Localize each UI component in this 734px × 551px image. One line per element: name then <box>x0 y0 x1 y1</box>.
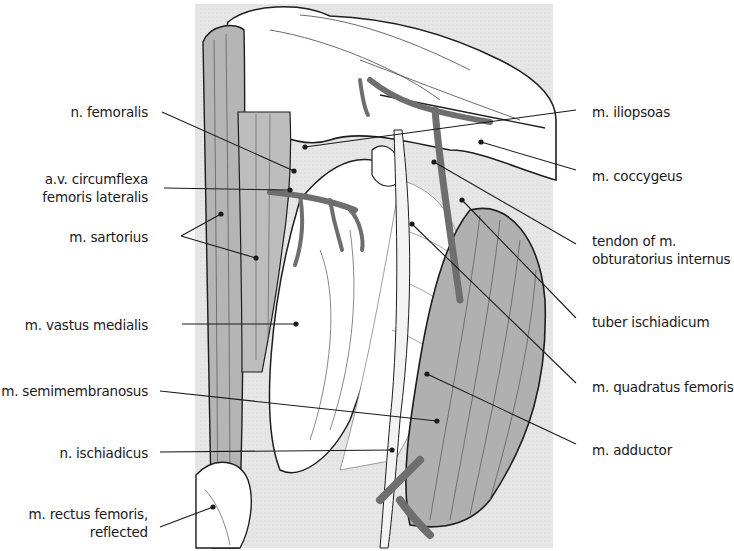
label-line: m. semimembranosus <box>1 382 148 400</box>
label-line: n. femoralis <box>70 103 148 121</box>
label-line: a.v. circumflexa <box>42 170 148 188</box>
label-n-femoralis: n. femoralis <box>70 103 148 121</box>
leader-dot-m-coccygeus <box>478 139 483 144</box>
leader-dot-n-femoralis <box>291 168 296 173</box>
label-line: reflected <box>29 523 148 541</box>
label-m-rectus-femoris-reflected: m. rectus femoris,reflected <box>29 505 148 541</box>
label-line: m. coccygeus <box>592 167 682 185</box>
leader-dot-m-adductor <box>424 371 429 376</box>
label-m-quadratus-femoris: m. quadratus femoris <box>592 378 734 396</box>
label-line: m. iliopsoas <box>592 103 670 121</box>
leader-dot-tuber-ischiadicum <box>459 197 464 202</box>
leader-dot-m-sartorius-2 <box>253 255 258 260</box>
label-m-vastus-medialis: m. vastus medialis <box>25 316 148 334</box>
label-m-coccygeus: m. coccygeus <box>592 167 682 185</box>
leader-dot-m-sartorius <box>218 211 223 216</box>
label-line: n. ischiadicus <box>60 444 148 462</box>
label-line: tuber ischiadicum <box>592 313 709 331</box>
label-m-semimembranosus: m. semimembranosus <box>1 382 148 400</box>
leader-dot-m-iliopsoas <box>302 144 307 149</box>
leader-dot-m-rectus-femoris-reflected <box>210 504 215 509</box>
leader-dot-tendon-of-m-obturatorius-internus <box>431 159 436 164</box>
label-line: m. adductor <box>592 441 672 459</box>
label-n-ischiadicus: n. ischiadicus <box>60 444 148 462</box>
leader-dot-av-circumflexa-femoris-lateralis <box>287 187 292 192</box>
rectus-femoris-reflected <box>196 462 251 548</box>
label-line: m. quadratus femoris <box>592 378 734 396</box>
leader-dot-n-ischiadicus <box>389 447 394 452</box>
leader-dot-m-semimembranosus <box>434 418 439 423</box>
label-tuber-ischiadicum: tuber ischiadicum <box>592 313 709 331</box>
leader-dot-m-vastus-medialis <box>293 321 298 326</box>
label-line: m. vastus medialis <box>25 316 148 334</box>
label-tendon-of-m-obturatorius-internus: tendon of m.obturatorius internus <box>592 232 730 268</box>
label-line: obturatorius internus <box>592 250 730 268</box>
label-m-adductor: m. adductor <box>592 441 672 459</box>
leader-dot-m-quadratus-femoris <box>409 221 414 226</box>
label-line: m. rectus femoris, <box>29 505 148 523</box>
anatomy-illustration <box>0 0 734 551</box>
label-m-iliopsoas: m. iliopsoas <box>592 103 670 121</box>
label-line: m. sartorius <box>69 228 148 246</box>
label-m-sartorius: m. sartorius <box>69 228 148 246</box>
label-line: tendon of m. <box>592 232 730 250</box>
label-line: femoris lateralis <box>42 188 148 206</box>
label-av-circumflexa-femoris-lateralis: a.v. circumflexafemoris lateralis <box>42 170 148 206</box>
